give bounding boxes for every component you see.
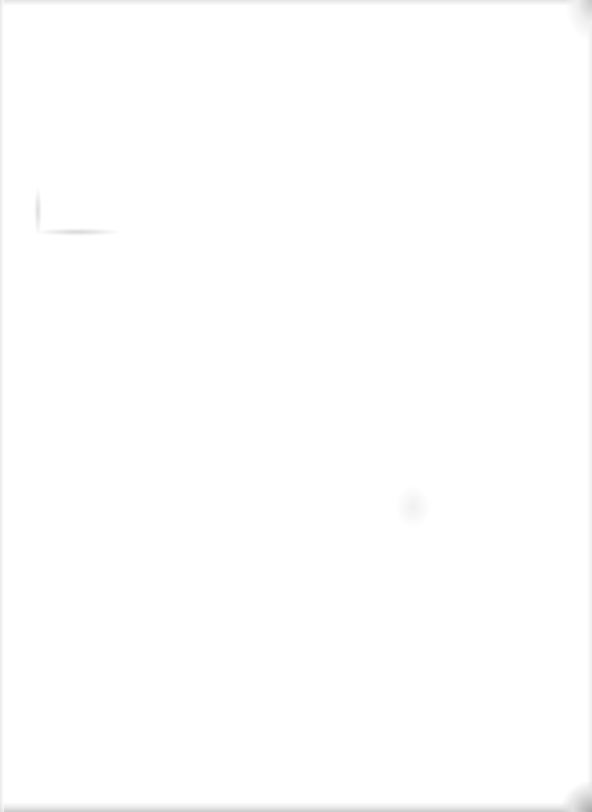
- smudge-horizontal: [34, 228, 122, 236]
- blank-document-page: [0, 0, 592, 812]
- scan-edge-left: [0, 0, 4, 812]
- faint-speck: [395, 485, 431, 529]
- scan-corner-noise: [562, 782, 592, 812]
- scan-corner-noise: [566, 0, 592, 40]
- scan-edge-bottom: [0, 802, 592, 812]
- scan-edge-right: [587, 0, 592, 812]
- faint-smudge-mark: [32, 186, 124, 238]
- scan-edge-top: [0, 0, 592, 6]
